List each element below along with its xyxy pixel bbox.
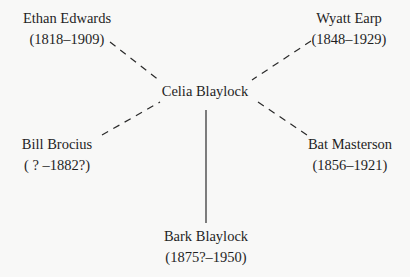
node-ethan-edwards: Ethan Edwards (1818–1909) [23,8,111,50]
node-celia-blaylock: Celia Blaylock [162,81,249,102]
link-wyatt-earp [252,41,311,80]
person-name: Bill Brocius [22,134,93,155]
person-dates: ( ? –1882?) [22,155,93,176]
node-wyatt-earp: Wyatt Earp (1848–1929) [312,8,387,50]
person-dates: (1818–1909) [23,29,111,50]
person-name: Bat Masterson [308,134,392,155]
link-bill-brocius [102,102,160,135]
person-dates: (1875?–1950) [164,247,248,268]
center-person-name: Celia Blaylock [162,81,249,102]
node-bill-brocius: Bill Brocius ( ? –1882?) [22,134,93,176]
person-dates: (1856–1921) [308,155,392,176]
person-name: Bark Blaylock [164,226,248,247]
node-bark-blaylock: Bark Blaylock (1875?–1950) [164,226,248,268]
person-name: Wyatt Earp [312,8,387,29]
node-bat-masterson: Bat Masterson (1856–1921) [308,134,392,176]
link-ethan-edwards [110,42,160,81]
person-name: Ethan Edwards [23,8,111,29]
link-bat-masterson [258,102,310,137]
person-dates: (1848–1929) [312,29,387,50]
